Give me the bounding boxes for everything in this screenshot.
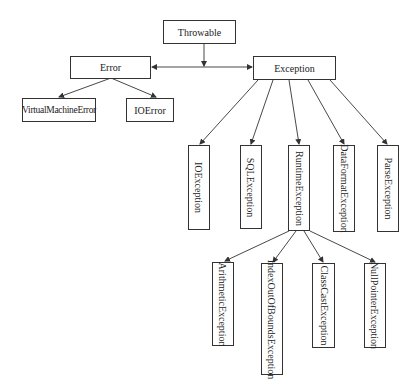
node-class-cast-exception: ClassCastException [312,263,335,348]
class-hierarchy-diagram: Throwable Error Exception VirtualMachine… [0,0,417,387]
edge-exception-sqlexception [251,80,273,144]
node-label: NullPointerException [370,262,381,349]
node-label: RuntimeException [294,151,305,226]
node-data-format-exception: DataFormatException [333,145,355,232]
edge-error-vmerror [59,78,111,97]
node-label: ParseException [383,157,394,219]
edge-exception-ioexception [200,80,258,144]
node-error: Error [70,56,151,79]
node-label: DataFormatException [339,144,350,232]
node-index-out-of-bounds-exception: IndexOutOfBoundsException [261,263,283,375]
edge-error-ioerror [111,78,156,97]
edge-exception-runtimeexception [289,80,299,144]
node-label: IOError [134,105,166,116]
node-virtual-machine-error: VirtualMachineError [22,98,96,122]
node-io-exception: IOException [188,145,210,230]
node-arithmetic-exception: ArithmeticException [212,262,234,346]
edge-runtime-indexoutofbounds [273,231,296,262]
node-label: IndexOutOfBoundsException [267,259,278,378]
node-label: VirtualMachineError [22,105,96,115]
edge-runtime-arithmetic [225,231,289,261]
node-sql-exception: SQLException [240,145,262,229]
node-parse-exception: ParseException [377,145,399,232]
node-label: ClassCastException [318,266,329,346]
node-null-pointer-exception: NullPointerException [364,263,386,348]
node-runtime-exception: RuntimeException [288,145,310,231]
node-label: SQLException [246,157,257,216]
node-label: ArithmeticException [218,262,229,346]
node-label: Error [100,62,121,73]
node-throwable: Throwable [163,20,236,44]
node-exception: Exception [253,56,336,80]
node-label: IOException [194,162,205,213]
node-label: Exception [274,63,315,74]
node-io-error: IOError [126,98,174,122]
node-label: Throwable [178,27,221,38]
